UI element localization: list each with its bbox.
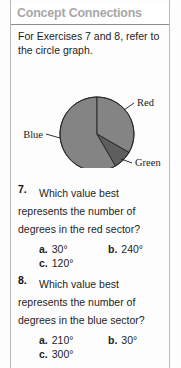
exercise-8: 8. Which value best represents the numbe… xyxy=(18,274,166,362)
exercise-8-choice-row-1: a.210° b.30° xyxy=(39,334,166,348)
worksheet-page: Concept Connections For Exercises 7 and … xyxy=(0,0,181,368)
exercise-7-choice-row-1: a.30° b.240° xyxy=(39,243,166,257)
exercise-7-number: 7. xyxy=(18,183,34,195)
page-rule-left xyxy=(10,0,11,368)
choice-value: 120° xyxy=(52,257,74,269)
choice-letter: c. xyxy=(39,348,48,360)
instructions-text: For Exercises 7 and 8, refer to the circ… xyxy=(18,30,164,57)
choice-letter: b. xyxy=(108,243,117,255)
choice-letter: c. xyxy=(39,257,48,269)
exercise-7-choices: a.30° b.240° c.120° xyxy=(39,243,166,271)
exercise-8-choice-a[interactable]: a.210° xyxy=(39,334,73,346)
choice-value: 30° xyxy=(52,243,68,255)
page-rule-right xyxy=(169,0,170,368)
exercise-7-prompt: 7. Which value best represents the numbe… xyxy=(18,183,166,237)
pie-label-red: Red xyxy=(137,97,155,108)
choice-value: 300° xyxy=(52,348,74,360)
exercise-8-prompt: 8. Which value best represents the numbe… xyxy=(18,274,166,328)
exercise-7-choice-row-2: c.120° xyxy=(39,257,166,271)
choice-letter: a. xyxy=(39,334,48,346)
choice-value: 240° xyxy=(121,243,143,255)
leader-line-red xyxy=(124,103,134,110)
page-title: Concept Connections xyxy=(17,5,142,20)
pie-label-green: Green xyxy=(135,157,161,168)
choice-letter: a. xyxy=(39,243,48,255)
exercise-8-choice-b[interactable]: b.30° xyxy=(108,334,137,346)
exercise-8-choices: a.210° b.30° c.300° xyxy=(39,334,166,362)
exercise-7-text: Which value best represents the number o… xyxy=(18,187,140,235)
exercise-7-choice-b[interactable]: b.240° xyxy=(108,243,143,255)
exercise-8-text: Which value best represents the number o… xyxy=(18,278,145,326)
choice-letter: b. xyxy=(108,334,117,346)
leader-line-blue xyxy=(46,134,60,138)
exercise-8-number: 8. xyxy=(18,274,34,286)
exercise-8-choice-c[interactable]: c.300° xyxy=(39,348,73,360)
exercise-7-choice-a[interactable]: a.30° xyxy=(39,243,68,255)
pie-label-blue: Blue xyxy=(23,129,43,140)
exercise-7-choice-c[interactable]: c.120° xyxy=(39,257,73,269)
choice-value: 30° xyxy=(121,334,137,346)
exercise-8-choice-row-2: c.300° xyxy=(39,348,166,362)
circle-graph-figure: Red Blue Green xyxy=(0,78,181,168)
exercise-7: 7. Which value best represents the numbe… xyxy=(18,183,166,271)
choice-value: 210° xyxy=(52,334,74,346)
